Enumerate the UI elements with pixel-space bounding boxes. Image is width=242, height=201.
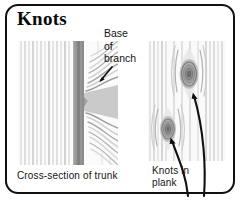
knots-in-plank-image [148,41,226,161]
plank-grain-graphic [148,41,226,161]
caption-line-2: plank [152,177,189,189]
caption-line-1: Knots in [152,165,189,177]
callout-base-of-branch: Base of branch [104,27,136,65]
trunk-grain-graphic [18,41,118,165]
caption-line-1: Cross-section of trunk [17,170,118,182]
knots-figure: Knots [0,0,242,201]
cross-section-of-trunk-image [18,41,118,165]
page-title: Knots [17,9,67,29]
caption-knots-in-plank: Knots in plank [152,165,189,189]
callout-line-1: Base [104,27,136,40]
callout-line-3: branch [104,52,136,65]
callout-line-2: of [104,40,136,53]
caption-cross-section-of-trunk: Cross-section of trunk [17,170,118,182]
